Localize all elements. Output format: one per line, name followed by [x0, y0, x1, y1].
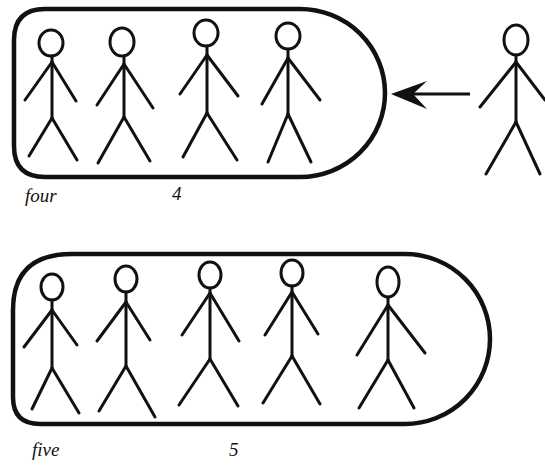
- stick-figure: [263, 260, 320, 404]
- stick-figure: [97, 266, 155, 417]
- group-four-figures: [25, 20, 320, 163]
- diagram-canvas: [0, 0, 545, 471]
- stick-figure: [357, 267, 425, 408]
- stick-figure: [262, 23, 320, 162]
- incoming-stick-figure: [480, 25, 545, 174]
- stick-figure: [179, 262, 239, 406]
- group-four-word-label: four: [25, 186, 57, 205]
- group-five-word-label: five: [32, 440, 59, 459]
- group-four-number-label: 4: [172, 184, 182, 203]
- left-arrow-icon: [391, 81, 470, 109]
- group-five-container: [13, 254, 490, 424]
- stick-figure: [180, 20, 238, 160]
- group-five-figures: [24, 260, 425, 417]
- stick-figure: [97, 28, 153, 163]
- group-five-number-label: 5: [229, 440, 239, 459]
- stick-figure: [25, 30, 77, 160]
- stick-figure: [24, 274, 79, 413]
